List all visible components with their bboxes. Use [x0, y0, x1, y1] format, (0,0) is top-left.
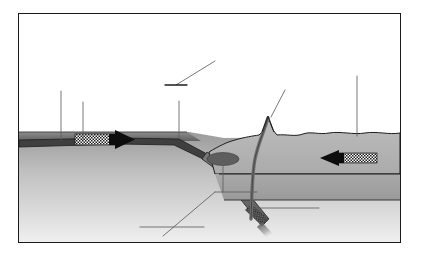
cross-section-diagram: [19, 14, 400, 242]
continental-crust-lower: [215, 174, 400, 200]
figure-container: Fig 27A destructive plate boundary: [0, 0, 421, 257]
